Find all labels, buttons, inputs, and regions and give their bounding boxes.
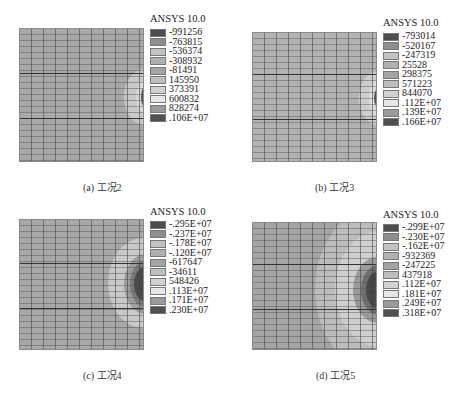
- legend-row: .230E+07: [150, 306, 240, 316]
- legend-swatch: [383, 118, 399, 126]
- mesh-line-major: [20, 308, 143, 309]
- legend-swatch: [150, 259, 166, 267]
- legend-swatch: [383, 262, 399, 270]
- legend-swatch: [150, 67, 166, 75]
- legend-swatch: [150, 76, 166, 84]
- legend-swatch: [383, 109, 399, 117]
- legend-swatch: [150, 278, 166, 286]
- legend-swatch: [150, 48, 166, 56]
- legend-value: .318E+07: [402, 307, 441, 318]
- legend-swatch: [383, 71, 399, 79]
- legend-swatch: [150, 95, 166, 103]
- legend-swatch: [150, 230, 166, 238]
- software-label: ANSYS 10.0: [383, 17, 438, 28]
- legend-swatch: [150, 306, 166, 314]
- software-label: ANSYS 10.0: [150, 206, 205, 217]
- legend-swatch: [150, 29, 166, 37]
- mesh-grid: [253, 33, 376, 161]
- legend-swatch: [383, 80, 399, 88]
- legend-value: .106E+07: [169, 112, 208, 123]
- legend-value: .166E+07: [402, 116, 441, 127]
- contour-plot-c: [19, 219, 144, 350]
- legend-swatch: [150, 297, 166, 305]
- legend-swatch: [383, 271, 399, 279]
- legend-swatch: [383, 224, 399, 232]
- mesh-grid: [20, 29, 143, 161]
- software-label: ANSYS 10.0: [383, 209, 438, 220]
- legend-swatch: [150, 240, 166, 248]
- legend-swatch: [150, 86, 166, 94]
- mesh-grid: [20, 220, 143, 349]
- caption-a: (a) 工况2: [83, 179, 122, 194]
- legend-swatch: [383, 99, 399, 107]
- legend-swatch: [383, 281, 399, 289]
- caption-c: (c) 工况4: [83, 367, 122, 382]
- legend-swatch: [383, 42, 399, 50]
- legend-swatch: [383, 290, 399, 298]
- caption-d: (d) 工况5: [316, 367, 355, 382]
- caption-b: (b) 工况3: [315, 179, 354, 194]
- legend-row: .106E+07: [150, 114, 240, 124]
- legend-swatch: [150, 221, 166, 229]
- legend-swatch: [383, 309, 399, 317]
- legend-value: .230E+07: [169, 304, 208, 315]
- legend-swatch: [150, 114, 166, 122]
- legend-row: .166E+07: [383, 118, 466, 128]
- legend-swatch: [150, 268, 166, 276]
- legend-swatch: [150, 287, 166, 295]
- mesh-line-major: [20, 263, 143, 264]
- mesh-line-major: [20, 73, 143, 74]
- legend-swatch: [383, 252, 399, 260]
- software-label: ANSYS 10.0: [150, 13, 205, 24]
- legend-row: .318E+07: [383, 309, 466, 319]
- legend-swatch: [383, 61, 399, 69]
- legend-swatch: [383, 300, 399, 308]
- legend-swatch: [383, 233, 399, 241]
- legend-swatch: [150, 38, 166, 46]
- contour-plot-b: [252, 32, 377, 162]
- mesh-line-major: [20, 118, 143, 119]
- mesh-line-major: [253, 309, 376, 310]
- contour-plot-d: [252, 222, 377, 350]
- legend-swatch: [383, 33, 399, 41]
- legend-swatch: [150, 249, 166, 257]
- mesh-line-major: [253, 74, 376, 75]
- mesh-grid: [253, 223, 376, 349]
- legend-swatch: [383, 90, 399, 98]
- mesh-line-major: [253, 119, 376, 120]
- legend-swatch: [150, 105, 166, 113]
- legend-swatch: [383, 52, 399, 60]
- mesh-line-major: [253, 264, 376, 265]
- legend-swatch: [150, 57, 166, 65]
- contour-plot-a: [19, 28, 144, 162]
- legend-swatch: [383, 243, 399, 251]
